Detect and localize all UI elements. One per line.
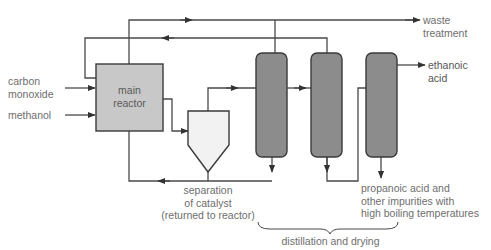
separator-label-line1: separation	[148, 184, 268, 197]
impurities-line3: high boiling temperatures	[361, 207, 479, 220]
waste-label-line2: treatment	[423, 27, 467, 40]
distillation-column-2	[311, 53, 342, 157]
distillation-column-3	[366, 53, 397, 157]
carbon-monoxide-line1: carbon	[8, 75, 54, 88]
impurities-label: propanoic acid and other impurities with…	[361, 182, 479, 220]
waste-label-line1: waste	[423, 14, 467, 27]
reactor-label: main reactor	[96, 84, 163, 109]
distillation-column-1	[256, 53, 287, 157]
distillation-brace	[258, 222, 398, 234]
waste-treatment-label: waste treatment	[423, 14, 467, 39]
reactor-output-line	[163, 99, 188, 131]
carbon-monoxide-line2: monoxide	[8, 88, 54, 101]
impurities-line1: propanoic acid and	[361, 182, 479, 195]
separator-label: separation of catalyst (returned to reac…	[148, 184, 268, 222]
ethanoic-acid-line1: ethanoic	[428, 59, 468, 72]
separator-label-line2: of catalyst	[148, 197, 268, 210]
methanol-label: methanol	[8, 109, 51, 122]
ethanoic-acid-label: ethanoic acid	[428, 59, 468, 84]
reactor-label-line1: main	[96, 84, 163, 97]
reactor-label-line2: reactor	[96, 97, 163, 110]
separator-label-line3: (returned to reactor)	[148, 209, 268, 222]
distillation-and-drying-label: distillation and drying	[258, 235, 403, 248]
catalyst-separator	[188, 111, 229, 172]
ethanoic-acid-line2: acid	[428, 72, 468, 85]
impurities-line2: other impurities with	[361, 195, 479, 208]
carbon-monoxide-label: carbon monoxide	[8, 75, 54, 100]
separator-output-line	[208, 88, 256, 111]
